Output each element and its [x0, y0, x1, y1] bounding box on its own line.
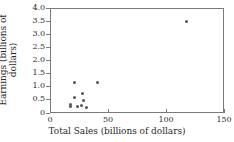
scatter-plot-figure: Earnings (billions of dollars) 00.51.01.…	[0, 0, 234, 142]
x-tick-mark	[50, 109, 51, 113]
y-tick-label: 0.5	[33, 94, 45, 103]
x-tick-label: 50	[103, 115, 113, 124]
data-point	[76, 105, 79, 108]
data-point	[73, 96, 76, 99]
y-tick-label: 1.5	[33, 68, 45, 77]
data-point	[185, 20, 188, 23]
data-point	[81, 92, 84, 95]
y-tick-label: 2.0	[33, 55, 45, 64]
data-point	[73, 81, 76, 84]
data-point	[85, 106, 88, 109]
data-point	[96, 81, 99, 84]
y-tick-label: 3.5	[33, 16, 45, 25]
x-axis-title: Total Sales (billions of dollars)	[0, 126, 234, 137]
x-tick-mark	[108, 109, 109, 113]
y-tick-label: 3.0	[33, 29, 45, 38]
y-tick-label: 1.0	[33, 81, 45, 90]
y-tick-label: 2.5	[33, 42, 45, 51]
y-tick-label: 4.0	[33, 3, 45, 12]
x-tick-mark	[166, 109, 167, 113]
x-tick-mark	[224, 109, 225, 113]
data-point	[69, 103, 72, 106]
plot-area	[50, 8, 224, 113]
data-point	[80, 104, 83, 107]
x-tick-label: 100	[159, 115, 174, 124]
x-tick-label: 0	[48, 115, 53, 124]
x-tick-label: 150	[217, 115, 232, 124]
data-point	[82, 99, 85, 102]
